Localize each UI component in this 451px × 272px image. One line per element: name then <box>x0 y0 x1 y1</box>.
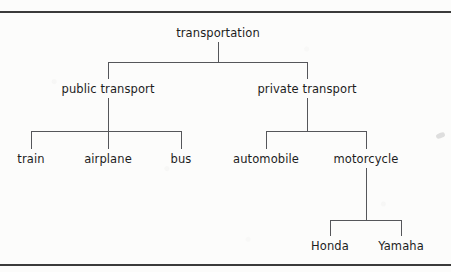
connector-root-bar <box>108 62 308 63</box>
node-automobile: automobile <box>233 153 299 165</box>
connector-motorcycle-stem <box>366 168 367 220</box>
node-train: train <box>17 153 44 165</box>
connector-to-motorcycle <box>366 131 367 149</box>
scan-artifact-smudge <box>435 132 445 140</box>
connector-to-public-transport <box>108 62 109 79</box>
connector-to-automobile <box>266 131 267 149</box>
node-private-transport: private transport <box>257 83 356 95</box>
connector-private-transport-stem <box>307 98 308 131</box>
connector-root-stem <box>218 42 219 62</box>
node-bus: bus <box>171 153 192 165</box>
connector-private-transport-bar <box>266 131 366 132</box>
diagram-page: transportation public transport private … <box>0 0 451 272</box>
connector-to-train <box>31 131 32 149</box>
node-transportation: transportation <box>176 27 260 39</box>
node-airplane: airplane <box>84 153 132 165</box>
paper-grain-texture <box>0 0 451 272</box>
node-yamaha: Yamaha <box>378 240 424 252</box>
connector-public-transport-stem <box>108 98 109 131</box>
node-motorcycle: motorcycle <box>334 153 399 165</box>
connector-to-yamaha <box>401 220 402 236</box>
node-public-transport: public transport <box>62 83 155 95</box>
connector-to-airplane <box>108 131 109 149</box>
connector-to-honda <box>330 220 331 236</box>
connector-to-private-transport <box>307 62 308 79</box>
node-honda: Honda <box>311 240 349 252</box>
connector-motorcycle-bar <box>330 220 401 221</box>
connector-to-bus <box>181 131 182 149</box>
bottom-horizontal-rule <box>0 264 451 266</box>
connector-public-transport-bar <box>31 131 181 132</box>
top-horizontal-rule <box>0 11 451 13</box>
